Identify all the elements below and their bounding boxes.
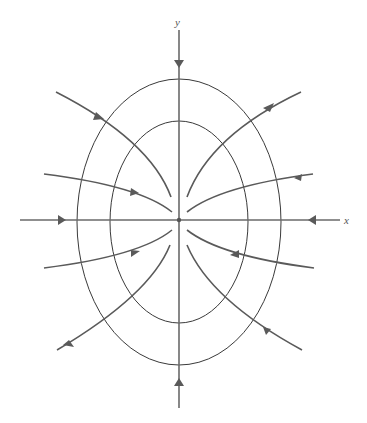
arrow-icon	[58, 215, 66, 225]
y-axis-label: y	[174, 16, 180, 28]
trajectory-lower-right-steep	[187, 245, 302, 350]
arrow-icon	[174, 60, 184, 68]
trajectory-upper-right-steep	[187, 92, 301, 197]
trajectory-lower-right-shallow	[187, 230, 314, 268]
x-axis-label: x	[343, 214, 349, 226]
trajectory-lower-left-shallow	[44, 230, 172, 268]
arrow-icon	[294, 174, 302, 181]
trajectory-upper-left-shallow	[44, 174, 172, 212]
arrow-icon	[131, 250, 140, 257]
trajectory-lower-left-steep	[57, 245, 170, 350]
trajectory-upper-right-shallow	[187, 174, 313, 212]
phase-portrait-diagram: x y	[0, 0, 367, 423]
origin-point	[177, 218, 181, 222]
arrow-icon	[174, 378, 184, 386]
trajectory-upper-left-steep	[56, 92, 171, 197]
arrow-icon	[308, 215, 316, 225]
